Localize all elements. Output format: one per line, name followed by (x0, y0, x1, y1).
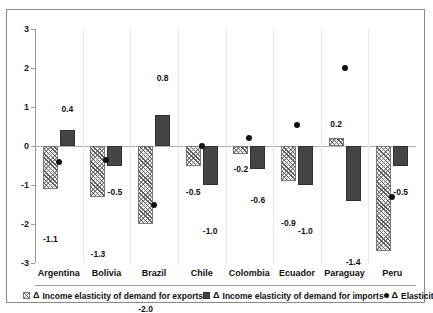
y-tick-mark (31, 224, 35, 225)
elasticity-ratio-dot-chile (199, 143, 205, 149)
category-gridline (321, 29, 322, 263)
bar-exports-paraguay (329, 138, 344, 146)
legend-item-elasticity-ratio[interactable]: Δ Elasticity ratio (384, 291, 433, 301)
category-label-colombia: Colombia (229, 268, 270, 278)
bar-value-label: -1.3 (91, 249, 106, 259)
y-tick-label: -1 (21, 180, 29, 190)
hatched-square-swatch-icon (23, 292, 30, 299)
legend-divider (35, 285, 416, 286)
y-tick-mark (31, 107, 35, 108)
category-label-paraguay: Paraguay (324, 268, 365, 278)
category-gridline (178, 29, 179, 263)
y-tick-label: -2 (21, 219, 29, 229)
y-tick-mark (31, 263, 35, 264)
elasticity-ratio-dot-colombia (246, 135, 252, 141)
category-label-chile: Chile (191, 268, 213, 278)
legend-delta-symbol-ratio: Δ (392, 291, 398, 300)
elasticity-ratio-dot-brazil (151, 202, 157, 208)
bar-value-label: -0.5 (393, 187, 408, 197)
legend-item-exports[interactable]: Δ Income elasticity of demand for export… (23, 291, 203, 301)
y-tick-mark (31, 68, 35, 69)
bar-value-label: -0.6 (250, 195, 265, 205)
bar-imports-argentina (60, 130, 75, 146)
bar-exports-chile (186, 146, 201, 166)
y-tick-mark (31, 146, 35, 147)
elasticity-ratio-dot-argentina (56, 159, 62, 165)
category-gridline (226, 29, 227, 263)
category-gridline (368, 29, 369, 263)
bar-value-label: -1.1 (43, 234, 58, 244)
elasticity-ratio-dot-paraguay (342, 65, 348, 71)
bar-value-label: -1.0 (203, 226, 218, 236)
bar-exports-brazil (138, 146, 153, 224)
category-axis: ArgentinaBoliviaBrazilChileColombiaEcuad… (35, 268, 416, 282)
y-tick-label: 2 (24, 63, 29, 73)
category-label-bolivia: Bolivia (92, 268, 122, 278)
category-label-peru: Peru (382, 268, 402, 278)
dark-square-swatch-icon (203, 292, 210, 299)
legend-item-imports[interactable]: Δ Income elasticity of demand for import… (203, 291, 384, 301)
bar-imports-peru (393, 146, 408, 166)
bar-value-label: -0.9 (281, 218, 296, 228)
bar-value-label: 0.2 (330, 119, 342, 129)
bar-imports-ecuador (298, 146, 313, 185)
bar-value-label: 0.4 (61, 104, 73, 114)
bar-value-label: 0.8 (157, 73, 169, 83)
elasticity-ratio-dot-ecuador (294, 122, 300, 128)
chart-frame: 3210-1-2-3 -1.10.4-1.3-0.5-2.00.8-0.5-1.… (6, 9, 425, 303)
y-tick-label: 3 (24, 24, 29, 34)
legend-delta-symbol-imports: Δ (213, 291, 219, 300)
legend-label-exports: Income elasticity of demand for exports (42, 291, 203, 301)
y-tick-label: 1 (24, 102, 29, 112)
bar-imports-paraguay (346, 146, 361, 201)
bar-exports-argentina (43, 146, 58, 189)
bar-imports-brazil (155, 115, 170, 146)
chart-legend: Δ Income elasticity of demand for export… (23, 289, 419, 302)
bar-exports-colombia (233, 146, 248, 154)
category-label-brazil: Brazil (142, 268, 167, 278)
bar-exports-bolivia (90, 146, 105, 197)
bar-value-label: -0.5 (108, 187, 123, 197)
category-gridline (130, 29, 131, 263)
bar-exports-ecuador (281, 146, 296, 181)
bar-imports-colombia (250, 146, 265, 169)
bar-imports-chile (203, 146, 218, 185)
category-label-ecuador: Ecuador (279, 268, 315, 278)
black-dot-marker-icon (384, 293, 389, 298)
legend-delta-symbol-exports: Δ (33, 291, 39, 300)
category-gridline (83, 29, 84, 263)
bar-value-label: -1.4 (346, 257, 361, 267)
bar-imports-bolivia (107, 146, 122, 166)
bar-value-label: -2.0 (138, 304, 153, 313)
legend-label-imports: Income elasticity of demand for imports (223, 291, 384, 301)
bar-value-label: -0.5 (186, 187, 201, 197)
y-tick-mark (31, 29, 35, 30)
plot-area: 3210-1-2-3 -1.10.4-1.3-0.5-2.00.8-0.5-1.… (35, 29, 416, 263)
bar-value-label: -1.0 (298, 226, 313, 236)
y-tick-mark (31, 185, 35, 186)
category-label-argentina: Argentina (38, 268, 80, 278)
category-gridline (273, 29, 274, 263)
bar-value-label: -0.2 (233, 164, 248, 174)
y-tick-label: -3 (21, 258, 29, 268)
elasticity-ratio-dot-bolivia (103, 157, 109, 163)
legend-label-elasticity-ratio: Elasticity ratio (401, 291, 433, 301)
y-tick-label: 0 (24, 141, 29, 151)
